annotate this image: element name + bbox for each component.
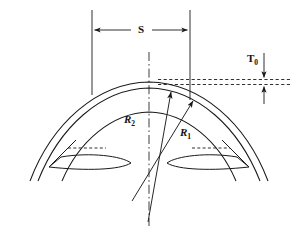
span-label: S bbox=[138, 24, 144, 35]
blade-tip-right bbox=[167, 155, 249, 170]
radius-outer-subscript: 2 bbox=[131, 119, 135, 128]
radius-inner-label: R1 bbox=[180, 127, 191, 141]
figure-canvas: S T0 R2 R1 bbox=[0, 0, 300, 230]
blade-tip-left bbox=[49, 155, 131, 170]
radius-inner-subscript: 1 bbox=[187, 132, 191, 141]
blade-tip-right-leader bbox=[222, 140, 249, 167]
diagram-svg bbox=[0, 0, 300, 230]
thickness-label: T0 bbox=[247, 53, 258, 67]
blade-tip-left-leader bbox=[49, 140, 76, 167]
radius-inner-leader bbox=[132, 101, 193, 201]
radius-outer-label: R2 bbox=[124, 114, 135, 128]
radius-outer-leader bbox=[148, 92, 171, 222]
thickness-label-subscript: 0 bbox=[254, 58, 258, 67]
